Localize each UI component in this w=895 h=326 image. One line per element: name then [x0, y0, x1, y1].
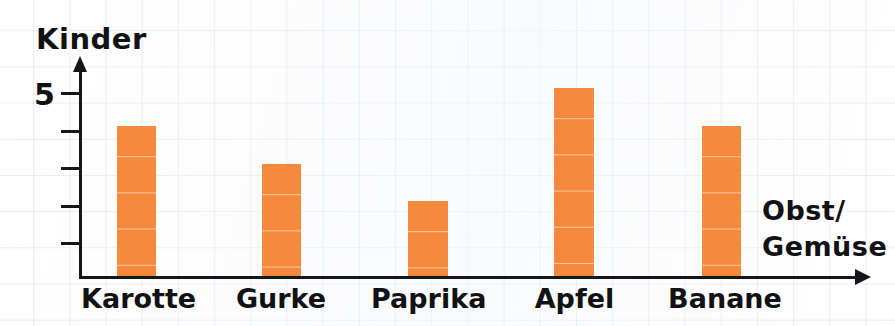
y-axis-tick-2 [61, 205, 82, 208]
x-axis-category-label-paprika: Paprika [371, 283, 486, 314]
bar-gurke [262, 164, 301, 276]
y-axis-title: Kinder [36, 22, 147, 56]
bar-apfel [554, 88, 594, 276]
y-axis-tick-1 [61, 242, 82, 245]
x-axis-category-label-banane: Banane [666, 283, 784, 314]
x-axis-category-label-karotte: Karotte [81, 283, 193, 314]
y-axis-tick-3 [61, 167, 82, 170]
y-axis-tick-label-5: 5 [34, 77, 55, 112]
x-axis-line [79, 276, 858, 279]
bar-karotte [117, 126, 156, 276]
bar-banane [702, 126, 741, 276]
bar-paprika [408, 201, 448, 276]
x-axis-title-line-1: Obst/ [762, 195, 846, 226]
x-axis-title-line-2: Gemüse [762, 229, 887, 265]
x-axis-title: Obst/ Gemüse [762, 193, 887, 264]
bar-chart-worksheet: 5 Kinder Obst/ Gemüse Karotte Gurke Papr… [0, 0, 895, 326]
x-axis-category-label-gurke: Gurke [233, 283, 329, 314]
x-axis-category-label-apfel: Apfel [527, 283, 622, 314]
y-axis-tick-5 [61, 92, 82, 95]
y-axis-tick-4 [61, 130, 82, 133]
y-axis-arrow-icon [73, 56, 87, 72]
y-axis-line [79, 66, 82, 279]
x-axis-arrow-icon [855, 269, 871, 285]
